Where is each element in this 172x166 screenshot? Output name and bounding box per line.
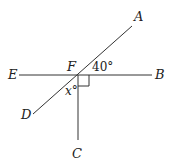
angle-40-label: 40° (92, 60, 113, 74)
label-c: C (72, 146, 82, 161)
label-f: F (66, 59, 77, 74)
label-e: E (7, 67, 18, 82)
angle-x-label: x° (65, 84, 78, 98)
label-a: A (133, 9, 143, 24)
right-angle-marker (78, 75, 89, 86)
geometry-diagram: A B C D E F 40° x° (0, 0, 172, 166)
line-ad (33, 26, 132, 114)
label-d: D (20, 107, 32, 122)
label-b: B (154, 67, 165, 82)
